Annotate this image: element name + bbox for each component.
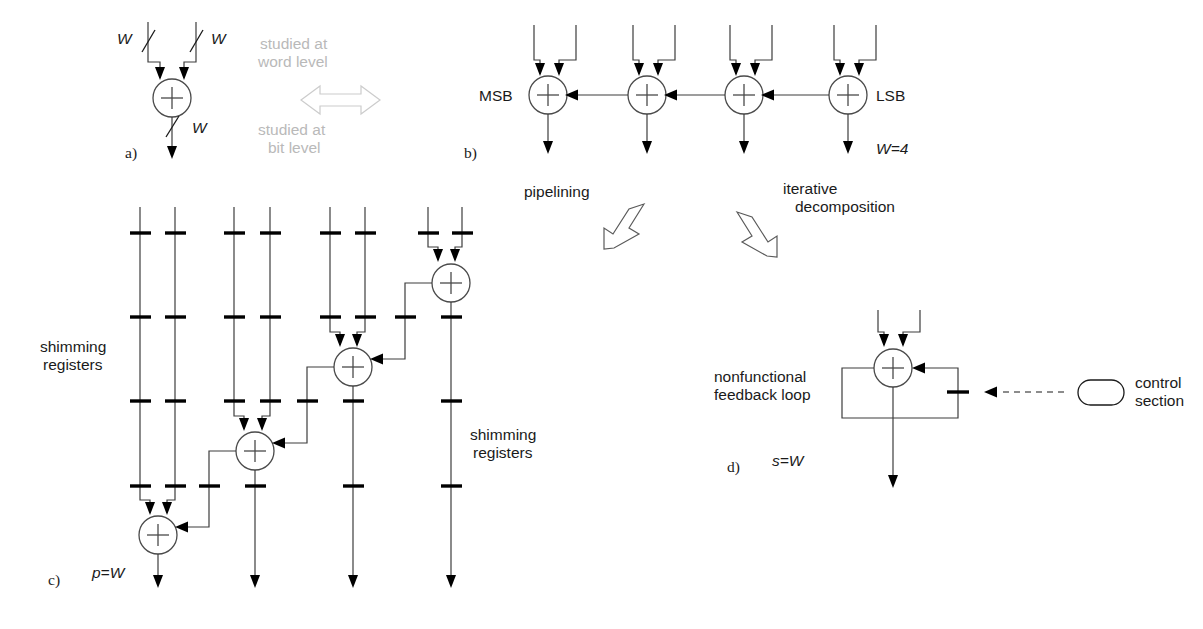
iterative-label-line1: iterative (783, 180, 837, 197)
panel-b: b) MSB LSB W=4 (464, 25, 909, 162)
shimming-left-line1: shimming (40, 338, 106, 355)
panel-b-width-label: W=4 (876, 140, 909, 157)
pipelining-arrow-icon (604, 204, 644, 249)
level-annotation: studied at word level studied at bit lev… (257, 35, 380, 156)
panel-b-msb-label: MSB (479, 87, 513, 104)
feedback-label-line1: nonfunctional (714, 368, 806, 385)
panel-b-label: b) (464, 144, 477, 162)
figure-canvas: a) W W W studied at word level studied a… (0, 0, 1203, 629)
adder-c-4 (432, 264, 470, 302)
panel-c-throughput-label: p=W (91, 564, 126, 581)
shimming-right-line1: shimming (470, 426, 536, 443)
word-level-line1: studied at (260, 35, 328, 52)
shimming-left-line2: registers (43, 356, 103, 373)
carry-c-4-3 (379, 283, 432, 359)
control-label-line1: control (1135, 374, 1182, 391)
carry-c-3-2 (281, 367, 334, 443)
control-section-box (1078, 380, 1124, 405)
pipelining-label: pipelining (524, 183, 590, 200)
adder-b-4 (829, 76, 867, 114)
iterative-label-line2: decomposition (795, 198, 895, 215)
panel-d: d) s=W nonfunctional feedback loop contr… (714, 310, 1184, 488)
bit-level-line1: studied at (258, 121, 326, 138)
word-level-line2: word level (257, 53, 328, 70)
adder-c-3 (334, 348, 372, 386)
adder-b-1 (529, 76, 567, 114)
panel-b-lsb-label: LSB (876, 87, 905, 104)
control-label-line2: section (1135, 392, 1184, 409)
panel-a-label: a) (125, 144, 137, 162)
panel-c: c) p=W shimming registers shimming regis… (40, 207, 536, 589)
adder-d (874, 349, 912, 387)
panel-a-input-right-label: W (211, 30, 227, 47)
shimming-right-line2: registers (473, 444, 533, 461)
adder-b-3 (725, 76, 763, 114)
panel-d-latency-label: s=W (772, 452, 805, 469)
diagram-svg: a) W W W studied at word level studied a… (0, 0, 1203, 629)
feedback-label-line2: feedback loop (714, 386, 811, 403)
carry-c-2-1 (184, 451, 236, 527)
panel-d-label: d) (727, 458, 740, 476)
transform-arrows: pipelining iterative decomposition (524, 180, 895, 257)
bit-level-line2: bit level (268, 139, 321, 156)
panel-a: a) W W W (117, 22, 227, 162)
adder-c-2 (236, 432, 274, 470)
double-arrow-icon (301, 86, 380, 114)
iterative-arrow-icon (737, 212, 777, 257)
panel-a-output-label: W (192, 119, 208, 136)
adder-a (153, 79, 191, 117)
adder-c-1 (139, 516, 177, 554)
panel-c-label: c) (48, 571, 60, 589)
panel-a-input-left-label: W (117, 30, 133, 47)
adder-b-2 (628, 76, 666, 114)
